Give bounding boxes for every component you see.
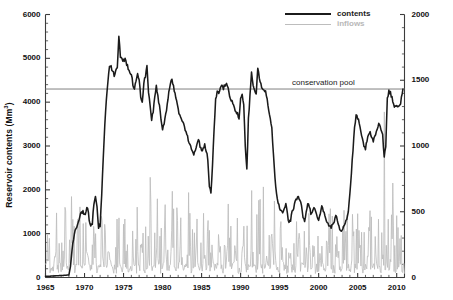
x-tick-label: 1985 [186, 283, 218, 292]
y-tick-label-left: 0 [4, 273, 41, 282]
y-tick-label-left: 5000 [4, 53, 41, 62]
legend-swatch-contents [285, 13, 331, 15]
x-tick-label: 1965 [30, 283, 62, 292]
x-tick-label: 2005 [342, 283, 374, 292]
y-tick-label-right: 1500 [412, 75, 449, 84]
y-tick-label-left: 1000 [4, 229, 41, 238]
legend-label-inflows: inflows [337, 19, 365, 29]
legend-item-contents[interactable]: contents [285, 9, 370, 19]
y-tick-label-right: 2000 [412, 10, 449, 19]
plot-area [0, 0, 453, 300]
y-tick-label-right: 500 [412, 207, 449, 216]
x-tick-label: 1970 [69, 283, 101, 292]
legend-swatch-inflows [285, 24, 331, 25]
legend-label-contents: contents [337, 9, 370, 19]
reservoir-chart-figure: Reservoir contents (Mm3) Reservoir month… [0, 0, 453, 300]
x-tick-label: 1990 [225, 283, 257, 292]
x-tick-label: 1980 [147, 283, 179, 292]
conservation-pool-label: conservation pool [292, 78, 355, 87]
x-tick-label: 1995 [264, 283, 296, 292]
x-tick-label: 2010 [381, 283, 413, 292]
y-tick-label-right: 0 [412, 273, 449, 282]
y-tick-label-left: 6000 [4, 10, 41, 19]
legend-item-inflows[interactable]: inflows [285, 19, 370, 29]
y-tick-label-left: 4000 [4, 97, 41, 106]
y-tick-label-left: 3000 [4, 141, 41, 150]
series-line-contents [46, 36, 403, 276]
y-tick-label-left: 2000 [4, 185, 41, 194]
y-tick-label-right: 1000 [412, 141, 449, 150]
x-tick-label: 1975 [108, 283, 140, 292]
x-tick-label: 2000 [303, 283, 335, 292]
legend: contents inflows [285, 9, 370, 29]
